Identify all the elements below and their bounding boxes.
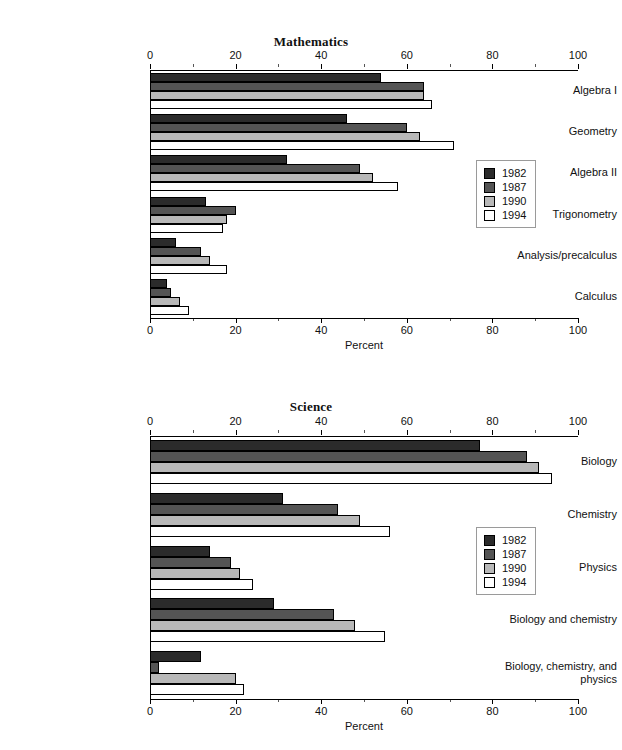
category-label: Geometry: [476, 125, 622, 138]
axis-tick-label: 80: [486, 324, 498, 336]
axis-tick: [407, 430, 408, 435]
bar: [150, 546, 210, 557]
axis-tick-label: 60: [401, 415, 413, 427]
axis-tick-label: 0: [147, 49, 153, 61]
bar: [150, 215, 227, 224]
axis-tick-label: 100: [569, 705, 587, 717]
legend-swatch-icon: [484, 577, 495, 588]
axis-tick: [236, 430, 237, 435]
axis-tick-label: 40: [315, 324, 327, 336]
bar: [150, 224, 223, 233]
bar: [150, 526, 390, 537]
plot-top-rule: [150, 70, 578, 71]
axis-tick: [150, 64, 151, 69]
axis-tick-label: 80: [486, 705, 498, 717]
bar: [150, 598, 274, 609]
category-label: Calculus: [476, 290, 622, 303]
axis-tick-label: 80: [486, 415, 498, 427]
plot-bottom-rule: [150, 699, 578, 700]
axis-tick-label: 20: [229, 705, 241, 717]
bar: [150, 173, 373, 182]
bar: [150, 265, 227, 274]
category-label: Biology, chemistry, andphysics: [476, 660, 622, 686]
axis-tick-label: 40: [315, 705, 327, 717]
axis-minor-tick: [535, 430, 536, 433]
axis-tick: [321, 64, 322, 69]
bar: [150, 206, 236, 215]
bar: [150, 306, 189, 315]
bar: [150, 73, 381, 82]
bar: [150, 473, 552, 484]
category-label: Analysis/precalculus: [476, 249, 622, 262]
x-axis-caption: Percent: [150, 339, 578, 351]
legend-swatch-icon: [484, 210, 495, 221]
legend-item[interactable]: 1994: [484, 208, 526, 222]
legend-item[interactable]: 1987: [484, 547, 526, 561]
bar: [150, 123, 407, 132]
bar: [150, 279, 167, 288]
chart-title: Mathematics: [0, 34, 622, 50]
legend-item[interactable]: 1994: [484, 575, 526, 589]
bar: [150, 82, 424, 91]
bar: [150, 515, 360, 526]
legend-item[interactable]: 1990: [484, 194, 526, 208]
legend-swatch-icon: [484, 168, 495, 179]
legend-swatch-icon: [484, 535, 495, 546]
axis-tick-label: 40: [315, 415, 327, 427]
axis-tick-label: 0: [147, 415, 153, 427]
axis-minor-tick: [364, 64, 365, 67]
legend-swatch-icon: [484, 563, 495, 574]
axis-tick: [578, 64, 579, 69]
bar: [150, 631, 385, 642]
x-axis-bottom: 020406080100: [150, 699, 578, 717]
bar: [150, 451, 527, 462]
category-label: Biology and chemistry: [476, 613, 622, 626]
legend-label: 1982: [502, 168, 526, 179]
bar: [150, 684, 244, 695]
bar: [150, 620, 355, 631]
bar: [150, 114, 347, 123]
bar: [150, 673, 236, 684]
axis-tick-label: 40: [315, 49, 327, 61]
bar: [150, 288, 171, 297]
axis-tick-label: 20: [229, 324, 241, 336]
legend-label: 1987: [502, 549, 526, 560]
plot-top-rule: [150, 436, 578, 437]
axis-tick: [578, 430, 579, 435]
axis-tick: [492, 64, 493, 69]
legend-item[interactable]: 1982: [484, 533, 526, 547]
axis-minor-tick: [450, 64, 451, 67]
axis-tick-label: 20: [229, 415, 241, 427]
bar: [150, 579, 253, 590]
legend-item[interactable]: 1987: [484, 180, 526, 194]
bar: [150, 651, 201, 662]
axis-minor-tick: [450, 430, 451, 433]
legend-item[interactable]: 1982: [484, 166, 526, 180]
legend-swatch-icon: [484, 196, 495, 207]
axis-tick-label: 100: [569, 415, 587, 427]
axis-tick: [407, 64, 408, 69]
science-chart-panel: Science020406080100020406080100BiologyCh…: [0, 375, 622, 750]
x-axis-bottom: 020406080100: [150, 318, 578, 336]
chart-title: Science: [0, 399, 622, 415]
bar: [150, 493, 283, 504]
legend-swatch-icon: [484, 549, 495, 560]
bar: [150, 238, 176, 247]
bar: [150, 164, 360, 173]
legend-swatch-icon: [484, 182, 495, 193]
axis-tick: [236, 64, 237, 69]
legend-label: 1987: [502, 182, 526, 193]
axis-tick-label: 60: [401, 49, 413, 61]
bar: [150, 197, 206, 206]
legend-item[interactable]: 1990: [484, 561, 526, 575]
axis-tick-label: 100: [569, 324, 587, 336]
axis-minor-tick: [193, 64, 194, 67]
category-label: Algebra I: [476, 84, 622, 97]
plot-bottom-rule: [150, 318, 578, 319]
bar: [150, 182, 398, 191]
legend-label: 1990: [502, 196, 526, 207]
axis-tick-label: 0: [147, 705, 153, 717]
axis-tick: [578, 699, 579, 704]
bar: [150, 141, 454, 150]
axis-tick-label: 100: [569, 49, 587, 61]
